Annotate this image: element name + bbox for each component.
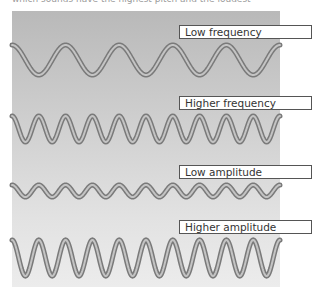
label-low-frequency: Low frequency bbox=[179, 25, 312, 39]
waves-svg bbox=[0, 0, 325, 294]
wave-higher-amplitude bbox=[12, 240, 280, 276]
label-low-amplitude: Low amplitude bbox=[179, 165, 312, 179]
wave-higher-frequency-outline bbox=[12, 116, 280, 142]
wave-higher-frequency bbox=[12, 116, 280, 142]
wave-higher-amplitude-outline bbox=[12, 240, 280, 276]
wave-low-amplitude-outline bbox=[12, 185, 280, 197]
label-higher-frequency: Higher frequency bbox=[179, 96, 312, 110]
wave-low-frequency bbox=[12, 45, 280, 75]
label-higher-amplitude: Higher amplitude bbox=[179, 220, 312, 234]
